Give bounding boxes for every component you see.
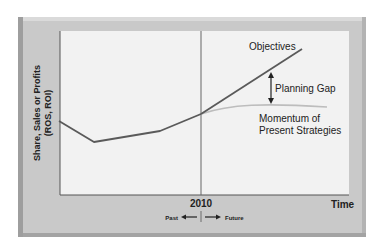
past-arrow-icon	[181, 215, 197, 220]
future-label: Future	[225, 215, 244, 221]
y-axis-label-line1: Share, Sales or Profits	[32, 65, 42, 161]
past-label: Past	[165, 215, 178, 221]
x-axis-label: Time	[331, 199, 355, 210]
momentum-label-line2: Present Strategies	[259, 125, 341, 136]
x-tick-2010: 2010	[190, 198, 213, 209]
planning-gap-label: Planning Gap	[275, 83, 336, 94]
y-axis-label-line2: (ROS, ROI)	[43, 90, 53, 137]
planning-gap-chart: Objectives Planning Gap Momentum of Pres…	[0, 0, 382, 250]
future-arrow-icon	[205, 215, 221, 220]
objectives-label: Objectives	[249, 41, 296, 52]
y-axis-label: Share, Sales or Profits (ROS, ROI)	[32, 65, 53, 161]
momentum-label-line1: Momentum of	[259, 113, 320, 124]
